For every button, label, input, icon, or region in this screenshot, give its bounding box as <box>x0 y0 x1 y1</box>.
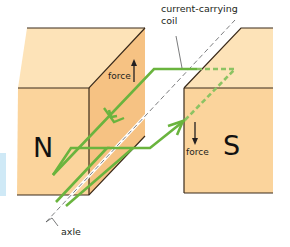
north-magnet <box>17 28 145 195</box>
south-magnet <box>184 28 273 193</box>
force-label-right: force <box>186 147 209 157</box>
south-pole-label: S <box>223 130 240 161</box>
north-pole-label: N <box>33 132 53 163</box>
coil-label: current-carrying <box>161 3 238 14</box>
motor-diagram: current-carrying coil force force N S ax… <box>0 0 290 247</box>
coil-leader-line <box>176 36 182 68</box>
south-magnet-top <box>184 28 273 88</box>
side-tab <box>0 153 6 196</box>
coil-label-line2: coil <box>161 15 177 26</box>
axle-label: axle <box>61 226 81 237</box>
force-label-left: force <box>108 71 131 81</box>
